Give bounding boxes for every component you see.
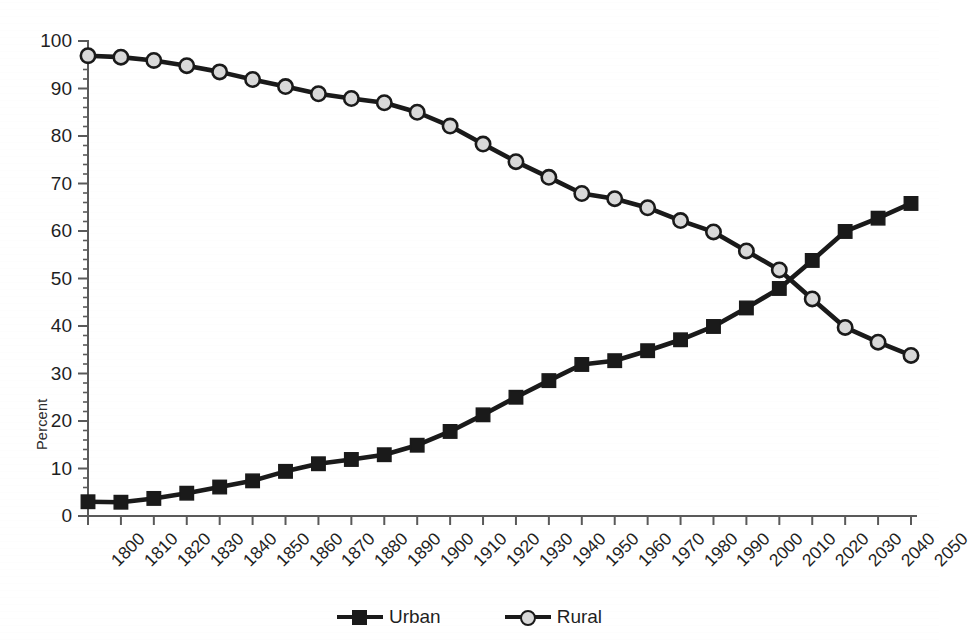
data-point	[608, 192, 622, 206]
data-point	[476, 137, 490, 151]
data-point	[707, 320, 721, 334]
rural-marker-icon	[505, 609, 551, 625]
data-point	[213, 480, 227, 494]
data-point	[245, 72, 259, 86]
data-point	[180, 58, 194, 72]
legend-item-rural: Rural	[505, 606, 602, 628]
data-point	[279, 465, 293, 479]
data-point	[838, 320, 852, 334]
data-point	[180, 486, 194, 500]
series-line	[88, 203, 911, 502]
data-point	[114, 50, 128, 64]
data-point	[81, 49, 95, 63]
data-point	[575, 358, 589, 372]
data-point	[542, 170, 556, 184]
data-point	[805, 292, 819, 306]
data-point	[640, 201, 654, 215]
data-point	[509, 391, 522, 405]
data-point	[443, 119, 457, 133]
data-point	[871, 211, 885, 225]
data-point	[805, 254, 819, 268]
data-point	[542, 374, 556, 388]
data-point	[344, 91, 358, 105]
data-point	[114, 495, 128, 509]
data-point	[312, 457, 326, 471]
data-point	[608, 354, 622, 368]
data-point	[476, 408, 490, 422]
data-point	[246, 474, 260, 488]
data-point	[739, 244, 753, 258]
data-point	[377, 96, 391, 110]
data-point	[641, 344, 655, 358]
data-point	[147, 53, 161, 67]
data-point	[674, 333, 688, 347]
urban-marker-icon	[337, 609, 383, 625]
data-point	[378, 448, 392, 462]
legend-label-urban: Urban	[389, 606, 441, 628]
data-point	[706, 225, 720, 239]
series-line	[88, 56, 911, 356]
data-point	[575, 186, 589, 200]
data-point	[740, 301, 754, 315]
data-point	[410, 105, 424, 119]
data-point	[81, 495, 95, 509]
legend-label-rural: Rural	[557, 606, 602, 628]
series-rural	[81, 49, 918, 363]
data-point	[147, 492, 161, 506]
data-point	[443, 425, 457, 439]
data-point	[904, 197, 918, 211]
data-point	[838, 225, 852, 239]
data-point	[345, 453, 359, 467]
data-point	[212, 65, 226, 79]
data-point	[772, 263, 786, 277]
data-point	[509, 154, 523, 168]
data-point	[871, 335, 885, 349]
data-point	[773, 282, 787, 296]
data-point	[673, 213, 687, 227]
data-point	[410, 438, 424, 452]
data-point	[904, 348, 918, 362]
series-urban	[81, 197, 918, 509]
chart-legend: Urban Rural	[0, 600, 939, 634]
data-point	[311, 87, 325, 101]
legend-item-urban: Urban	[337, 606, 441, 628]
data-point	[278, 79, 292, 93]
